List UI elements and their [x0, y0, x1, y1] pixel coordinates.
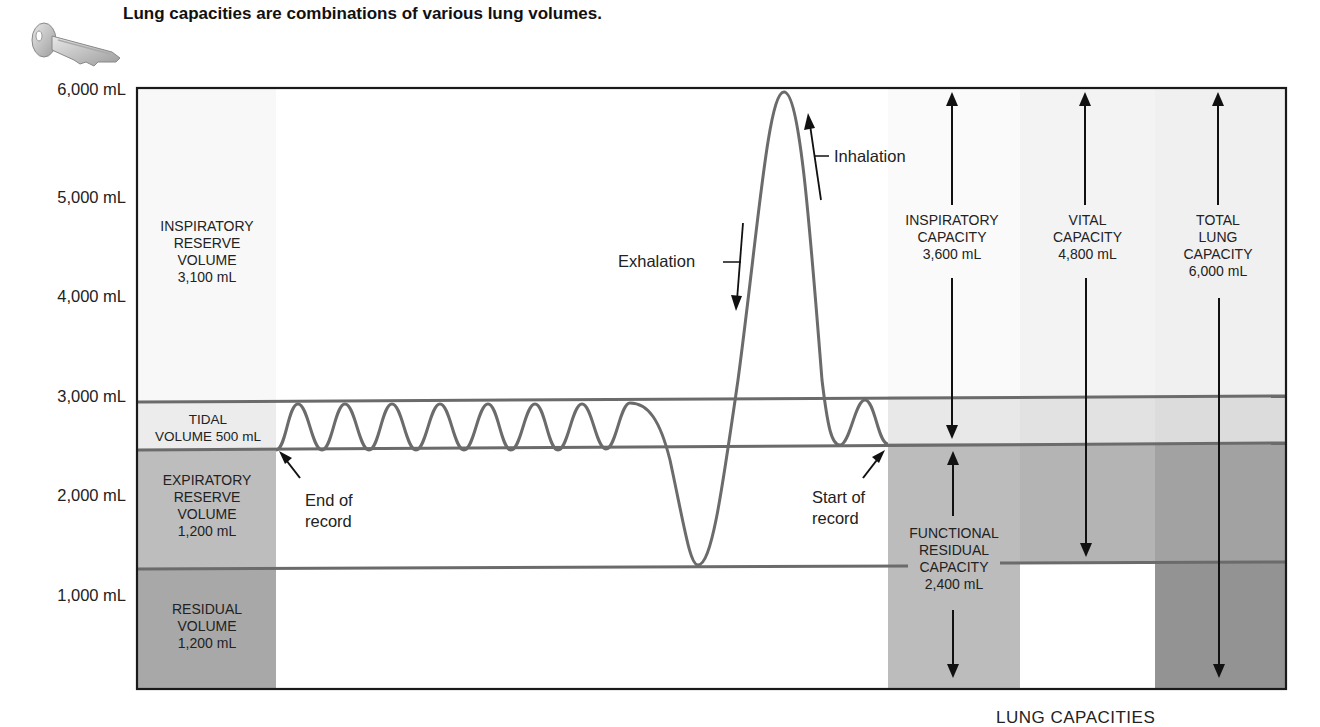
erv-label: EXPIRATORYRESERVEVOLUME1,200 mL	[138, 472, 276, 540]
tidal-volume-label: TIDALVOLUME 500 mL	[138, 411, 278, 445]
start-of-record-annotation: Start ofrecord	[812, 487, 865, 529]
total-lung-capacity-label: TOTALLUNGCAPACITY6,000 mL	[1150, 212, 1286, 280]
lung-capacities-caption: LUNG CAPACITIES	[996, 708, 1155, 727]
frc-label: FUNCTIONALRESIDUALCAPACITY2,400 mL	[888, 525, 1020, 593]
inhalation-annotation: Inhalation	[834, 146, 906, 167]
vital-capacity-label: VITALCAPACITY4,800 mL	[1020, 212, 1155, 263]
inspiratory-capacity-label: INSPIRATORYCAPACITY3,600 mL	[882, 212, 1022, 263]
exhalation-annotation: Exhalation	[618, 251, 695, 272]
residual-volume-label: RESIDUALVOLUME1,200 mL	[138, 601, 276, 652]
irv-label: INSPIRATORYRESERVEVOLUME3,100 mL	[138, 218, 276, 286]
end-of-record-annotation: End ofrecord	[305, 490, 353, 532]
